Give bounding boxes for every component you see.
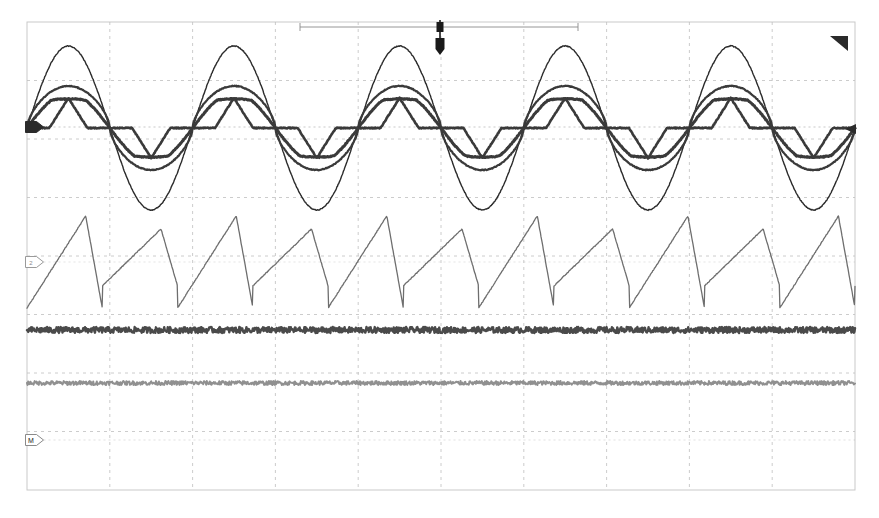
channel-marker-2-shape[interactable] [26, 257, 44, 268]
channel-marker-math[interactable]: M [26, 435, 856, 446]
waveform-canvas[interactable]: 2M [0, 0, 879, 518]
oscilloscope-display: 2M [0, 0, 879, 518]
waveform-traces [27, 46, 855, 385]
trigger-level-corner-marker[interactable] [830, 36, 848, 51]
channel-marker-math-label: M [28, 437, 34, 444]
trigger-marker-body[interactable] [436, 38, 445, 49]
trigger-marker-arrow [436, 49, 445, 55]
channel-marker-1-shape[interactable] [26, 122, 44, 133]
channel-marker-2[interactable]: 2 [26, 257, 856, 268]
graticule-grid [27, 22, 855, 490]
